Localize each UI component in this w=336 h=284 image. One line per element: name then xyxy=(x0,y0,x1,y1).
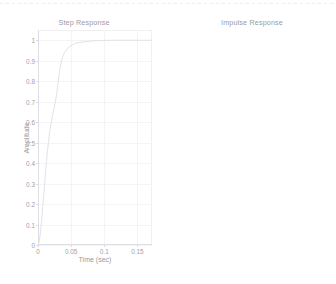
y-tick-label-step: 0.1 xyxy=(26,221,35,228)
x-axis-spine-step xyxy=(38,244,152,245)
x-tick-label-step: 0 xyxy=(36,248,40,255)
y-tick-step xyxy=(36,122,38,123)
y-tick-label-step: 0.3 xyxy=(26,180,35,187)
y-tick-label-step: 0.9 xyxy=(26,57,35,64)
grid-line-horizontal xyxy=(38,245,152,246)
y-axis-label-step: Amplitude xyxy=(23,122,30,153)
plot-impulse-response: Impulse Response 0102030405060 00.050.10… xyxy=(168,0,336,284)
y-tick-step xyxy=(36,204,38,205)
x-tick-label-step: 0.1 xyxy=(100,248,109,255)
x-tick-label-step: 0.05 xyxy=(65,248,77,255)
y-tick-step xyxy=(36,163,38,164)
y-tick-step xyxy=(36,184,38,185)
y-tick-label-step: 0.4 xyxy=(26,160,35,167)
y-tick-label-step: 0.7 xyxy=(26,98,35,105)
x-axis-label-step: Time (sec) xyxy=(79,256,112,263)
figure-canvas: Step Response 00.10.20.30.40.50.60.70.80… xyxy=(0,0,336,284)
y-tick-step xyxy=(36,102,38,103)
y-tick-step xyxy=(36,225,38,226)
x-tick-step xyxy=(38,245,39,247)
x-tick-step xyxy=(137,245,138,247)
x-tick-step xyxy=(71,245,72,247)
y-tick-step xyxy=(36,61,38,62)
curve-step-response xyxy=(38,30,152,245)
y-tick-step xyxy=(36,81,38,82)
plot-title-impulse: Impulse Response xyxy=(168,19,336,27)
y-tick-step xyxy=(36,40,38,41)
plot-step-response: Step Response 00.10.20.30.40.50.60.70.80… xyxy=(0,0,168,284)
y-tick-label-step: 0.8 xyxy=(26,78,35,85)
y-tick-label-step: 1 xyxy=(31,37,35,44)
plot-title-step: Step Response xyxy=(0,19,168,27)
y-axis-spine-step xyxy=(38,30,39,245)
x-tick-label-step: 0.15 xyxy=(131,248,143,255)
y-tick-step xyxy=(36,143,38,144)
axes-step-response: 00.10.20.30.40.50.60.70.80.91 00.050.10.… xyxy=(38,30,152,245)
y-tick-label-step: 0 xyxy=(31,242,35,249)
y-tick-label-step: 0.2 xyxy=(26,201,35,208)
x-tick-step xyxy=(104,245,105,247)
